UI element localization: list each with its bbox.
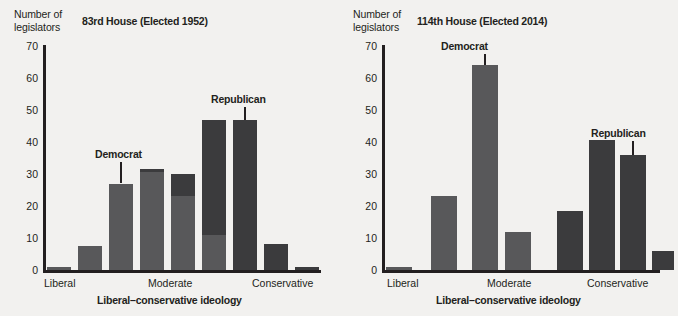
bar-8	[652, 251, 674, 270]
bar-8-republican-segment	[264, 244, 288, 270]
bar-5-republican-segment	[557, 211, 583, 270]
bar-1	[47, 267, 71, 270]
bar-6-republican-segment	[589, 140, 615, 270]
bar-5-republican-segment	[171, 174, 195, 196]
y-tick-10: 10	[16, 232, 38, 244]
x-axis-line	[382, 270, 660, 273]
bar-7-republican-segment	[620, 155, 646, 270]
x-tick-moderate: Moderate	[487, 277, 531, 289]
bar-4-democrat-segment	[140, 172, 164, 270]
bar-2-democrat-segment	[78, 246, 102, 270]
annotation-republican: Republican	[591, 127, 646, 139]
annotation-republican-leader-line	[632, 141, 634, 155]
y-tick-40: 40	[355, 136, 377, 148]
bar-5	[557, 211, 583, 270]
bar-6	[202, 120, 226, 270]
bar-3-democrat-segment	[109, 184, 133, 270]
annotation-republican: Republican	[211, 93, 266, 105]
y-tick-60: 60	[16, 72, 38, 84]
bar-7	[233, 120, 257, 270]
bar-5	[171, 174, 195, 270]
annotation-republican-leader-line	[244, 107, 246, 120]
y-axis-line	[382, 45, 385, 273]
x-tick-conservative: Conservative	[252, 277, 313, 289]
bar-1-democrat-segment	[386, 267, 412, 270]
plot-area: 70 60 50 40 30 20 10 0	[339, 0, 678, 316]
x-tick-liberal: Liberal	[387, 277, 419, 289]
bar-5-democrat-segment	[171, 196, 195, 270]
bar-1-democrat-segment	[47, 267, 71, 270]
y-axis-line	[43, 45, 46, 273]
y-tick-20: 20	[16, 200, 38, 212]
annotation-democrat: Democrat	[441, 40, 488, 52]
y-tick-40: 40	[16, 136, 38, 148]
bar-7	[620, 155, 646, 270]
bar-4-democrat-segment	[505, 232, 531, 270]
annotation-democrat-leader-line	[484, 54, 486, 65]
x-axis-label: Liberal–conservative ideology	[97, 294, 242, 306]
x-tick-liberal: Liberal	[44, 277, 76, 289]
bar-6	[589, 140, 615, 270]
bar-4	[140, 169, 164, 270]
y-tick-0: 0	[16, 264, 38, 276]
bar-2-democrat-segment	[431, 196, 457, 270]
y-tick-20: 20	[355, 200, 377, 212]
annotation-democrat: Democrat	[95, 148, 142, 160]
bar-1	[386, 267, 412, 270]
chart-figure: Number of legislators 83rd House (Electe…	[0, 0, 678, 316]
panel-114th-house: Number of legislators 114th House (Elect…	[339, 0, 678, 316]
x-axis-line	[43, 270, 321, 273]
bar-2	[78, 246, 102, 270]
y-tick-0: 0	[355, 264, 377, 276]
bar-3	[109, 184, 133, 270]
bar-9	[295, 267, 319, 270]
y-tick-50: 50	[355, 104, 377, 116]
x-tick-moderate: Moderate	[148, 277, 192, 289]
plot-area: 70 60 50 40 30 20 10 0	[0, 0, 339, 316]
x-axis-label: Liberal–conservative ideology	[436, 294, 581, 306]
y-tick-30: 30	[16, 168, 38, 180]
bar-4-republican-segment	[140, 169, 164, 172]
bar-3	[472, 65, 498, 270]
bar-7-republican-segment	[233, 120, 257, 270]
y-tick-50: 50	[16, 104, 38, 116]
panel-83rd-house: Number of legislators 83rd House (Electe…	[0, 0, 339, 316]
bar-2	[431, 196, 457, 270]
bar-8	[264, 244, 288, 270]
y-tick-70: 70	[355, 40, 377, 52]
y-tick-30: 30	[355, 168, 377, 180]
bar-4	[505, 232, 531, 270]
y-tick-10: 10	[355, 232, 377, 244]
bar-6-republican-segment	[202, 120, 226, 235]
annotation-democrat-leader-line	[120, 162, 122, 183]
x-tick-conservative: Conservative	[587, 277, 648, 289]
bar-3-democrat-segment	[472, 65, 498, 270]
y-tick-60: 60	[355, 72, 377, 84]
y-tick-70: 70	[16, 40, 38, 52]
bar-6-democrat-segment	[202, 235, 226, 270]
bar-8-republican-segment	[652, 251, 674, 270]
bar-9-republican-segment	[295, 267, 319, 270]
